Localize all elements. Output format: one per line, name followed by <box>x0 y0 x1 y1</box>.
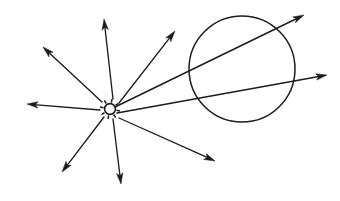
ray-upper-left-shaft <box>48 52 102 102</box>
sun-spike-5 <box>102 113 105 115</box>
ray-up <box>102 19 113 99</box>
sun-spike-7 <box>104 101 106 104</box>
ray-diagram-svg: Point light source ray diagram <box>0 0 340 201</box>
sun-spikes <box>100 99 120 119</box>
ray-through-lens-upper-shaft <box>115 18 298 107</box>
point-light-source <box>100 99 120 119</box>
sun-body-circle <box>105 104 116 115</box>
ray-lower-left-shaft <box>66 117 104 167</box>
ray-through-lens-lower-shaft <box>117 76 320 113</box>
ray-lower-left-arrowhead <box>62 161 71 172</box>
ray-through-lens-upper <box>115 15 304 107</box>
ray-left-shaft <box>34 105 100 110</box>
circle-lens <box>189 16 295 122</box>
ray-down <box>113 119 123 184</box>
ray-down-shaft <box>113 119 120 177</box>
sun-spike-0 <box>111 99 112 103</box>
ray-through-lens-upper-arrowhead <box>293 15 304 23</box>
sun-spike-2 <box>116 110 120 111</box>
sun-spike-3 <box>114 115 116 118</box>
ray-lower-left <box>62 117 104 172</box>
rays-layer <box>27 15 327 184</box>
ray-diagram-canvas: Point light source ray diagram <box>0 0 340 201</box>
ray-up-shaft <box>105 26 113 99</box>
ray-left <box>27 102 100 110</box>
ray-lower-right-shaft <box>119 118 209 158</box>
ray-lower-right <box>119 118 215 161</box>
sun-spike-6 <box>100 107 104 108</box>
ray-through-lens-lower <box>117 74 327 113</box>
ray-upper-left <box>43 47 102 102</box>
sun-spike-4 <box>108 115 109 119</box>
